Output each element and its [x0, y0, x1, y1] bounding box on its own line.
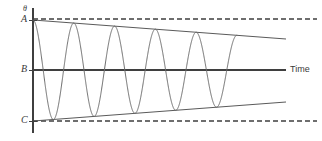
lower-envelope-line	[33, 102, 286, 121]
y-tick-label-c: C	[21, 115, 28, 125]
damped-oscillation-figure: θ A B C Time	[0, 0, 322, 141]
y-tick-label-b: B	[21, 64, 27, 74]
x-axis-label-time: Time	[290, 64, 310, 74]
plot-canvas	[0, 0, 322, 141]
y-axis-label-theta: θ	[23, 5, 27, 13]
y-tick-label-a: A	[21, 14, 27, 24]
